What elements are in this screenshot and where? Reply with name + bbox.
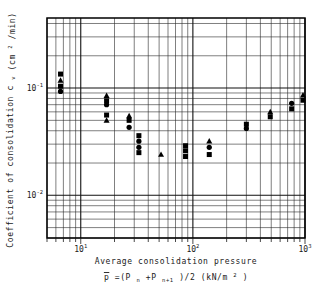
grid-minor-lines <box>47 18 305 238</box>
data-point-circle <box>244 126 249 131</box>
x-axis-formula-group: p =(P n +P n+1 )/2 (kN/m 2 ) <box>104 270 248 284</box>
data-point-square <box>183 148 188 153</box>
data-point-square <box>289 106 294 111</box>
formula-units-open: (kN/m <box>201 273 228 282</box>
y-axis-label-text: Coefficient of consolidation <box>6 96 15 248</box>
data-point-square <box>207 152 212 157</box>
consolidation-chart-figure: 101102103 10-110-2 Coefficient of consol… <box>0 0 320 288</box>
data-point-circle <box>104 102 109 107</box>
x-tick-label-2: 103 <box>299 243 312 254</box>
svg-text:103: 103 <box>299 243 312 254</box>
data-point-circle <box>289 101 294 106</box>
data-point-triangle <box>104 117 110 122</box>
data-point-square <box>183 154 188 159</box>
data-point-triangle <box>267 109 273 114</box>
data-point-square <box>268 114 273 119</box>
svg-text:102: 102 <box>186 243 199 254</box>
plot-frame <box>47 18 305 238</box>
y-tick-label-1: 10-2 <box>27 189 43 200</box>
data-point-triangle <box>206 138 212 143</box>
formula-p-bar: p <box>104 273 109 282</box>
data-point-circle <box>58 89 63 94</box>
formula-units-close: ) <box>243 273 248 282</box>
y-axis-units-close: /min) <box>8 12 17 39</box>
data-point-square <box>127 118 132 123</box>
svg-text:101: 101 <box>74 243 87 254</box>
data-point-circle <box>127 125 132 130</box>
formula-open: =(P <box>115 273 131 282</box>
data-point-square <box>58 72 63 77</box>
x-axis-tick-labels: 101102103 <box>74 243 311 254</box>
y-axis-symbol: c <box>6 85 15 90</box>
svg-text:Coefficient of consolidation: Coefficient of consolidation c v (cm 2 /… <box>5 12 17 247</box>
chart-svg: 101102103 10-110-2 Coefficient of consol… <box>0 0 320 288</box>
svg-text:p =(P n: p =(P n +P n+1 )/2 (kN/m 2 ) <box>104 270 248 284</box>
x-tick-label-0: 101 <box>74 243 87 254</box>
y-axis-units-superscript: 2 <box>7 45 13 49</box>
y-axis-symbol-subscript: v <box>10 76 16 80</box>
formula-tail: )/2 <box>179 273 195 282</box>
data-point-square <box>58 84 63 89</box>
y-axis-tick-labels: 10-110-2 <box>27 82 43 200</box>
data-point-square <box>104 113 109 118</box>
data-point-triangle <box>126 113 132 118</box>
formula-subscript-n: n <box>136 277 140 283</box>
data-point-square <box>183 143 188 148</box>
svg-text:10-2: 10-2 <box>27 189 43 200</box>
formula-mid: +P <box>146 273 157 282</box>
data-point-triangle <box>104 93 110 98</box>
x-axis-label-text: Average consolidation pressure <box>95 257 258 266</box>
data-point-circle <box>207 145 212 150</box>
data-point-circle <box>136 145 141 150</box>
grid-major-lines <box>47 18 305 238</box>
svg-text:10-1: 10-1 <box>27 82 43 93</box>
x-tick-label-1: 102 <box>186 243 199 254</box>
y-axis-label-group: Coefficient of consolidation c v (cm 2 /… <box>5 12 17 247</box>
data-point-triangle <box>58 77 64 82</box>
formula-units-superscript: 2 <box>233 272 237 278</box>
y-tick-label-0: 10-1 <box>27 82 43 93</box>
data-point-square <box>136 133 141 138</box>
data-point-square <box>301 98 306 103</box>
y-axis-units-open: (cm <box>8 54 17 70</box>
data-point-circle <box>136 139 141 144</box>
formula-subscript-n1: n+1 <box>162 277 174 283</box>
data-point-square <box>136 150 141 155</box>
